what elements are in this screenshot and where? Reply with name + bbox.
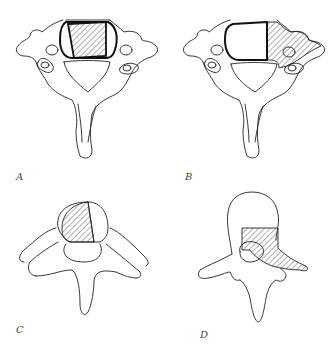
vertebra-diagram [0, 0, 334, 346]
panel-d-vertebra [198, 192, 307, 322]
panel-label-d: D [200, 330, 208, 340]
panel-b-vertebra [183, 20, 324, 158]
panel-a-vertebra [16, 20, 157, 158]
panel-label-c: C [16, 325, 24, 335]
panel-label-b: B [185, 172, 192, 182]
panel-label-a: A [16, 172, 23, 182]
panel-c-vertebra [20, 202, 149, 314]
